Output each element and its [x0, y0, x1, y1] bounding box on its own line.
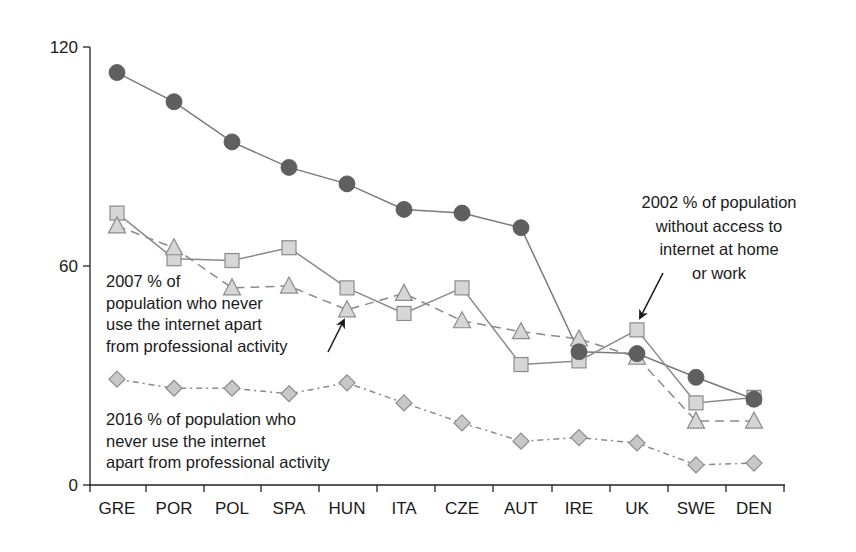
circle-marker: [109, 65, 125, 81]
square-marker: [689, 396, 703, 410]
circle-marker: [396, 201, 412, 217]
circle-marker: [746, 391, 762, 407]
square-marker: [397, 306, 411, 320]
annotation-2016-line: never use the internet: [106, 432, 266, 450]
y-tick-label: 120: [50, 38, 78, 57]
circle-marker: [281, 159, 297, 175]
circle-marker: [629, 346, 645, 362]
diamond-marker: [454, 415, 470, 431]
diamond-marker: [281, 386, 297, 402]
diamond-marker: [746, 455, 762, 471]
series-lines: [117, 73, 754, 465]
annotation-2002-line: 2002 % of population: [641, 193, 796, 211]
triangle-marker: [746, 412, 763, 428]
x-tick-label: POL: [215, 499, 249, 518]
y-tick-label: 60: [59, 257, 78, 276]
annotation-2002-line: or work: [692, 264, 747, 282]
annotation-2002-line: without access to: [655, 217, 783, 235]
annotation-2007-line: use the internet apart: [106, 315, 262, 333]
diamond-marker: [571, 430, 587, 446]
annotation-2002: 2002 % of populationwithout access toint…: [641, 193, 796, 282]
circle-marker: [688, 369, 704, 385]
x-tick-label: HUN: [329, 499, 366, 518]
circle-marker: [224, 134, 240, 150]
annotation-2007-line: population who never: [106, 294, 263, 312]
x-tick-label: SPA: [273, 499, 306, 518]
arrow-2007-icon: [328, 320, 344, 352]
diamond-marker: [513, 433, 529, 449]
x-tick-label: ITA: [391, 499, 417, 518]
triangle-marker: [281, 277, 298, 293]
x-tick-label: GRE: [99, 499, 136, 518]
square-marker: [455, 281, 469, 295]
square-marker: [630, 323, 644, 337]
line-chart: 060120GREPORPOLSPAHUNITACZEAUTIREUKSWEDE…: [0, 0, 856, 552]
circle-marker: [166, 94, 182, 110]
diamond-marker: [109, 371, 125, 387]
y-tick-label: 0: [69, 476, 78, 495]
annotation-2016: 2016 % of population whonever use the in…: [106, 410, 331, 471]
x-tick-label: POR: [156, 499, 193, 518]
annotation-2002-line: internet at home: [659, 240, 778, 258]
x-tick-label: IRE: [565, 499, 593, 518]
x-tick-label: UK: [625, 499, 649, 518]
annotation-2007-line: 2007 % of: [106, 272, 181, 290]
circle-marker: [513, 220, 529, 236]
circle-marker: [571, 344, 587, 360]
x-tick-label: SWE: [677, 499, 716, 518]
annotation-2007-line: from professional activity: [106, 337, 288, 355]
x-tick-label: AUT: [504, 499, 538, 518]
arrow-2002-icon: [640, 273, 663, 318]
diamond-marker: [396, 395, 412, 411]
diamond-marker: [339, 375, 355, 391]
x-tick-label: DEN: [736, 499, 772, 518]
annotation-2016-line: 2016 % of population who: [106, 410, 296, 428]
square-marker: [225, 254, 239, 268]
square-marker: [514, 358, 528, 372]
diamond-marker: [166, 380, 182, 396]
annotations: 2002 % of populationwithout access toint…: [106, 193, 797, 471]
square-marker: [282, 241, 296, 255]
diamond-marker: [688, 457, 704, 473]
triangle-marker: [166, 239, 183, 255]
triangle-marker: [224, 279, 241, 295]
diamond-marker: [629, 435, 645, 451]
circle-marker: [454, 205, 470, 221]
triangle-marker: [454, 312, 471, 328]
square-marker: [340, 281, 354, 295]
diamond-marker: [224, 380, 240, 396]
annotation-2007: 2007 % ofpopulation who neveruse the int…: [106, 272, 288, 355]
circle-marker: [339, 176, 355, 192]
triangle-marker: [396, 284, 413, 300]
annotation-2016-line: apart from professional activity: [106, 453, 331, 471]
x-tick-label: CZE: [445, 499, 479, 518]
